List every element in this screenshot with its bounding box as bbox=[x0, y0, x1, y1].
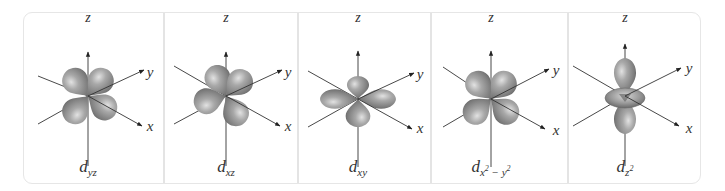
z-axis-label: z bbox=[223, 10, 228, 26]
orbital-panel-dyz: z y x dyz bbox=[0, 12, 163, 184]
y-axis-label: y bbox=[686, 60, 693, 77]
y-axis-label: y bbox=[285, 64, 292, 81]
z-axis-label: z bbox=[488, 10, 493, 26]
y-axis-label: y bbox=[147, 64, 154, 81]
orbital-label-dz2: dz2 bbox=[617, 157, 634, 178]
orbital-panel-dz2: z y x dz2 bbox=[567, 12, 702, 184]
orbital-label-dxy: dxy bbox=[349, 157, 367, 178]
y-axis-label: y bbox=[417, 66, 424, 83]
x-axis-label: x bbox=[147, 118, 154, 135]
x-axis-label: x bbox=[686, 120, 693, 137]
z-axis-label: z bbox=[355, 10, 360, 26]
z-axis-label: z bbox=[85, 10, 90, 26]
orbital-label-dyz: dyz bbox=[79, 157, 97, 178]
x-axis-label: x bbox=[285, 118, 292, 135]
orbital-panel-dxy: z y x dxy bbox=[297, 12, 430, 184]
orbital-label-dx2-y2: dx2 − y2 bbox=[471, 157, 510, 178]
orbital-dz2-illustration bbox=[567, 12, 702, 184]
orbital-label-dxz: dxz bbox=[217, 157, 235, 178]
y-axis-label: y bbox=[553, 62, 560, 79]
orbital-panel-dx2-y2: z y x dx2 − y2 bbox=[430, 12, 567, 184]
orbital-panel-dxz: z y x dxz bbox=[163, 12, 297, 184]
z-axis-label: z bbox=[622, 10, 627, 26]
x-axis-label: x bbox=[553, 122, 560, 139]
x-axis-label: x bbox=[417, 120, 424, 137]
